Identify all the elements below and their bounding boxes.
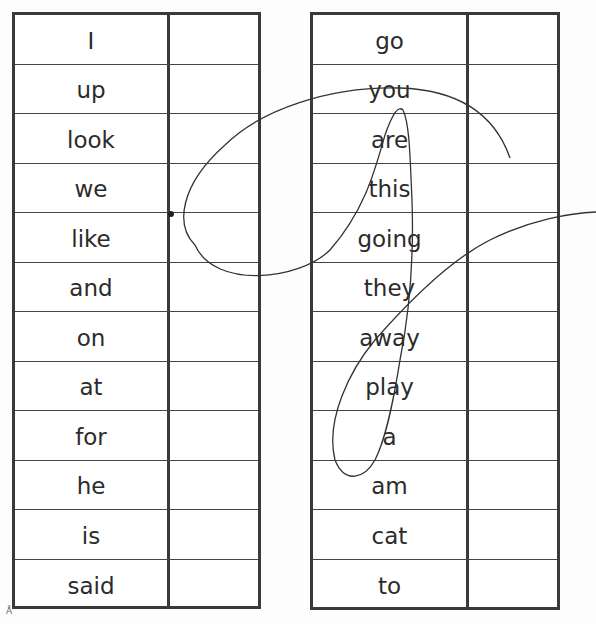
answer-cell[interactable]	[469, 213, 557, 262]
word-cell: you	[313, 65, 469, 114]
word-cell: look	[15, 114, 170, 163]
answer-cell[interactable]	[170, 15, 258, 64]
answer-cell[interactable]	[170, 263, 258, 312]
answer-cell[interactable]	[469, 510, 557, 559]
answer-cell[interactable]	[469, 461, 557, 510]
answer-cell[interactable]	[469, 114, 557, 163]
table-row: cat	[313, 510, 557, 560]
word-cell: a	[313, 411, 469, 460]
answer-cell[interactable]	[170, 510, 258, 559]
table-row: going	[313, 213, 557, 263]
table-row: on	[15, 312, 258, 362]
word-cell: play	[313, 362, 469, 411]
word-cell: are	[313, 114, 469, 163]
answer-cell[interactable]	[469, 560, 557, 610]
table-row: are	[313, 114, 557, 164]
answer-cell[interactable]	[170, 164, 258, 213]
answer-cell[interactable]	[469, 15, 557, 64]
table-row: he	[15, 461, 258, 511]
word-cell: on	[15, 312, 170, 361]
word-cell: we	[15, 164, 170, 213]
answer-cell[interactable]	[170, 65, 258, 114]
answer-cell[interactable]	[170, 114, 258, 163]
table-row: this	[313, 164, 557, 214]
word-cell: and	[15, 263, 170, 312]
table-row: I	[15, 15, 258, 65]
table-row: at	[15, 362, 258, 412]
answer-cell[interactable]	[469, 362, 557, 411]
left-word-table: I up look we like and on at for he is sa…	[12, 12, 261, 609]
answer-cell[interactable]	[170, 411, 258, 460]
word-cell: go	[313, 15, 469, 64]
answer-cell[interactable]	[170, 461, 258, 510]
table-row: they	[313, 263, 557, 313]
right-word-table: go you are this going they away play a a…	[310, 12, 560, 610]
word-cell: am	[313, 461, 469, 510]
answer-cell[interactable]	[170, 560, 258, 610]
word-cell: for	[15, 411, 170, 460]
word-cell: he	[15, 461, 170, 510]
table-row: and	[15, 263, 258, 313]
answer-cell[interactable]	[469, 411, 557, 460]
table-row: is	[15, 510, 258, 560]
word-cell: I	[15, 15, 170, 64]
answer-cell[interactable]	[469, 65, 557, 114]
sight-word-worksheet: I up look we like and on at for he is sa…	[0, 0, 596, 624]
answer-cell[interactable]	[170, 312, 258, 361]
table-row: play	[313, 362, 557, 412]
word-cell: this	[313, 164, 469, 213]
answer-cell[interactable]	[469, 312, 557, 361]
word-cell: is	[15, 510, 170, 559]
word-cell: going	[313, 213, 469, 262]
word-cell: up	[15, 65, 170, 114]
word-cell: said	[15, 560, 170, 610]
word-cell: at	[15, 362, 170, 411]
answer-cell[interactable]	[170, 213, 258, 262]
table-row: am	[313, 461, 557, 511]
answer-cell[interactable]	[469, 164, 557, 213]
answer-cell[interactable]	[170, 362, 258, 411]
word-cell: away	[313, 312, 469, 361]
word-cell: they	[313, 263, 469, 312]
corner-mark: Å	[6, 606, 12, 616]
table-row: we	[15, 164, 258, 214]
answer-cell[interactable]	[469, 263, 557, 312]
table-row: go	[313, 15, 557, 65]
table-row: up	[15, 65, 258, 115]
table-row: away	[313, 312, 557, 362]
table-row: for	[15, 411, 258, 461]
table-row: look	[15, 114, 258, 164]
word-cell: like	[15, 213, 170, 262]
table-row: like	[15, 213, 258, 263]
word-cell: to	[313, 560, 469, 610]
table-row: to	[313, 560, 557, 610]
table-row: said	[15, 560, 258, 610]
table-row: you	[313, 65, 557, 115]
table-row: a	[313, 411, 557, 461]
word-cell: cat	[313, 510, 469, 559]
